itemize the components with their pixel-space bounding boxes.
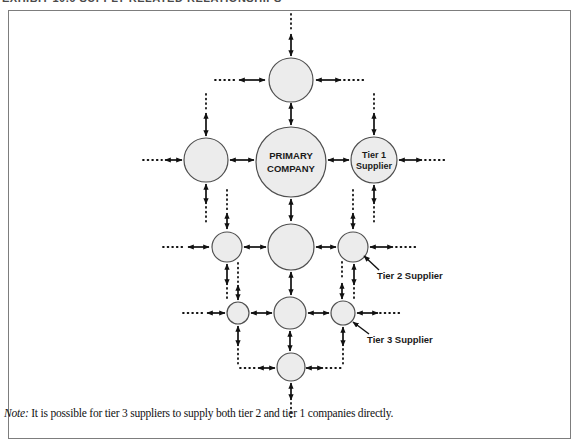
- exhibit-page: EXHIBIT 10.6 SUPPLY RELATED RELATIONSHIP…: [0, 0, 580, 448]
- node-tier3-left: [227, 302, 249, 324]
- node-tier2-supplier: [338, 232, 368, 262]
- tier3-callout-arrow: [353, 322, 369, 334]
- supply-relationships-diagram: PRIMARY COMPANY Tier 1 Supplier Tier 2 S…: [0, 0, 580, 448]
- tier2-callout-arrow: [364, 256, 379, 270]
- node-tier2-middle: [268, 224, 314, 270]
- node-tier2-left: [212, 232, 242, 262]
- node-top-supplier: [269, 58, 313, 102]
- callouts: Tier 2 Supplier Tier 3 Supplier: [353, 256, 443, 345]
- node-tier1-supplier: [351, 137, 397, 183]
- tier2-callout-label: Tier 2 Supplier: [377, 270, 443, 281]
- node-tier3-middle: [274, 297, 306, 329]
- note-text: It is possible for tier 3 suppliers to s…: [29, 407, 394, 419]
- tier3-callout-label: Tier 3 Supplier: [367, 334, 433, 345]
- primary-company-label-line1: PRIMARY: [269, 150, 313, 161]
- primary-company-label-line2: COMPANY: [267, 163, 316, 174]
- tier1-supplier-label-line1: Tier 1: [362, 150, 386, 160]
- note: Note: It is possible for tier 3 supplier…: [4, 407, 524, 419]
- node-tier1-left: [184, 138, 228, 182]
- note-prefix: Note:: [4, 407, 29, 419]
- tier1-supplier-label-line2: Supplier: [356, 161, 393, 171]
- node-bottom-supplier: [277, 353, 305, 381]
- node-primary-company: [256, 127, 326, 197]
- node-tier3-supplier: [331, 301, 355, 325]
